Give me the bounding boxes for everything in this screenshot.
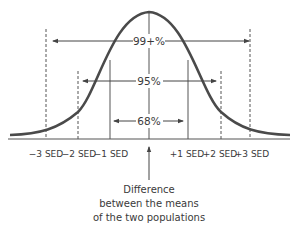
axis-label-plus-1: +1 SED xyxy=(170,149,205,159)
caption-line-1: Difference xyxy=(123,184,175,195)
normal-distribution-diagram: 99+% 95% 68% −3 SED −2 SED −1 SED +1 SED… xyxy=(0,0,296,232)
interval-95-label: 95% xyxy=(137,75,160,87)
axis-label-minus-2: −2 SED xyxy=(62,149,97,159)
caption-line-2: between the means xyxy=(99,198,199,209)
axis-label-minus-3: −3 SED xyxy=(29,149,64,159)
interval-99-label: 99+% xyxy=(133,35,165,47)
axis-label-minus-1: −1 SED xyxy=(94,149,129,159)
axis-label-plus-3: +3 SED xyxy=(235,149,270,159)
axis-label-plus-2: +2 SED xyxy=(203,149,238,159)
caption-line-3: of the two populations xyxy=(93,212,205,223)
interval-68-label: 68% xyxy=(137,115,160,127)
